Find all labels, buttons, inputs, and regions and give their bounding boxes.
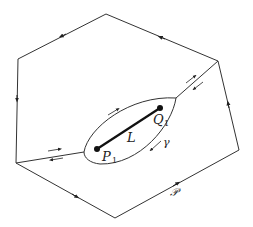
polygon-boundary: [16, 14, 239, 218]
label-region: 𝒫: [170, 186, 181, 199]
label-L: L: [126, 130, 136, 145]
arrow-icon: [108, 109, 118, 115]
label-gamma: γ: [163, 136, 170, 149]
edge-left: [16, 59, 18, 163]
arrow-icon: [72, 194, 77, 197]
label-Q: Q: [153, 112, 164, 127]
label-Q-sub: 1: [164, 119, 169, 128]
point-P1: [94, 146, 100, 152]
cut-left: [16, 152, 84, 163]
cut-right: [176, 61, 218, 98]
label-P: P: [101, 149, 111, 164]
arrow-icon: [151, 141, 161, 150]
contour-diagram: L P 1 Q 1 γ 𝒫: [0, 0, 253, 227]
arrow-icon: [51, 158, 63, 160]
arrow-icon: [228, 103, 229, 108]
cut-arrows: [48, 76, 203, 160]
point-Q1: [157, 105, 163, 111]
arrow-icon: [48, 149, 60, 151]
label-P-sub: 1: [112, 156, 117, 165]
arrow-icon: [194, 82, 203, 89]
edge-bottom-left: [16, 163, 115, 218]
